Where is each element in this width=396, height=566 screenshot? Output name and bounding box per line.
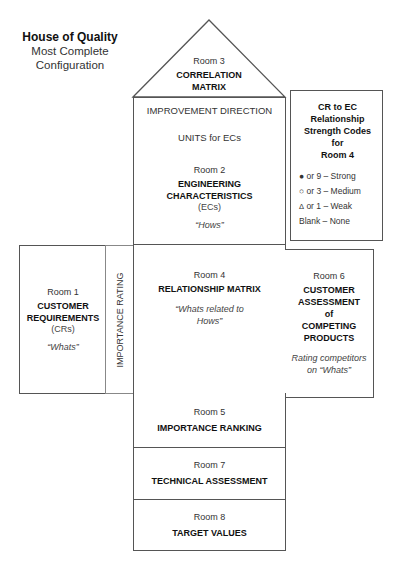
room1-customer-requirements: Room 1 CUSTOMER REQUIREMENTS (CRs) “What…: [19, 245, 106, 394]
room2-engineering-characteristics: Room 2 ENGINEERING CHARACTERISTICS (ECs)…: [133, 151, 286, 245]
legend-item-text: or 1 – Weak: [306, 201, 352, 211]
legend-title-line1: CR to EC: [299, 101, 376, 113]
room2-name-line1: ENGINEERING: [178, 178, 241, 190]
room3-name-line2: MATRIX: [192, 81, 226, 93]
room6-customer-assessment: Room 6 CUSTOMER ASSESSMENT of COMPETING …: [285, 249, 374, 398]
room7-technical-assessment: Room 7 TECHNICAL ASSESSMENT: [133, 447, 286, 500]
room4-relationship-matrix: Room 4 RELATIONSHIP MATRIX “Whats relate…: [133, 244, 286, 394]
legend-item-weak: Δ or 1 – Weak: [299, 199, 376, 214]
room6-tag-line1: Rating competitors: [291, 352, 366, 364]
room7-label: Room 7: [194, 460, 226, 470]
room8-label: Room 8: [194, 512, 226, 522]
legend-item-text: or 3 – Medium: [307, 186, 361, 196]
legend-item-text: Blank – None: [299, 216, 350, 226]
room8-name: TARGET VALUES: [172, 527, 247, 539]
legend-item-text: or 9 – Strong: [307, 171, 356, 181]
legend-item-none: Blank – None: [299, 214, 376, 229]
relationship-strength-legend: CR to EC Relationship Strength Codes for…: [290, 90, 383, 241]
room1-label: Room 1: [47, 287, 79, 297]
room3-correlation-matrix: Room 3 CORRELATION MATRIX: [160, 52, 258, 96]
room4-label: Room 4: [194, 270, 226, 280]
legend-item-medium: ○ or 3 – Medium: [299, 184, 376, 199]
room6-name-line2: ASSESSMENT: [298, 296, 360, 308]
legend-title-line3: Strength Codes for: [299, 125, 376, 149]
room6-name-line1: CUSTOMER: [303, 284, 354, 296]
room3-label: Room 3: [193, 56, 225, 66]
legend-title-line4: Room 4: [299, 149, 376, 161]
room1-name-line1: CUSTOMER: [37, 300, 88, 312]
room5-name: IMPORTANCE RANKING: [157, 422, 261, 434]
improvement-direction-row: IMPROVEMENT DIRECTION: [133, 97, 286, 124]
room8-target-values: Room 8 TARGET VALUES: [133, 499, 286, 551]
room7-name: TECHNICAL ASSESSMENT: [151, 475, 267, 487]
improvement-direction-label: IMPROVEMENT DIRECTION: [147, 105, 272, 116]
legend-list: ● or 9 – Strong ○ or 3 – Medium Δ or 1 –…: [299, 169, 376, 229]
importance-rating-column: IMPORTANCE RATING: [105, 245, 134, 394]
room6-name-line3: of: [325, 308, 334, 320]
room2-label: Room 2: [194, 165, 226, 175]
triangle-icon: Δ: [299, 202, 304, 211]
room5-label: Room 5: [194, 407, 226, 417]
room6-tag-line2: on “Whats”: [307, 364, 351, 376]
room2-name-line2: CHARACTERISTICS: [166, 190, 252, 202]
open-circle-icon: ○: [299, 186, 304, 196]
units-row: UNITS for ECs: [133, 123, 286, 152]
room6-name-line4: COMPETING: [302, 320, 357, 332]
room2-abbr: (ECs): [198, 202, 221, 212]
room4-tag-line1: “Whats related to: [175, 303, 244, 315]
importance-rating-label: IMPORTANCE RATING: [115, 272, 125, 367]
units-label: UNITS for ECs: [178, 132, 241, 143]
room2-tag: “Hows”: [195, 219, 224, 231]
room4-name: RELATIONSHIP MATRIX: [158, 283, 261, 295]
filled-circle-icon: ●: [299, 171, 304, 181]
room5-importance-ranking: Room 5 IMPORTANCE RANKING: [133, 393, 286, 448]
room1-name-line2: REQUIREMENTS: [27, 312, 100, 324]
room3-name-line1: CORRELATION: [176, 69, 241, 81]
room1-tag: “Whats”: [47, 341, 79, 353]
legend-title-line2: Relationship: [299, 113, 376, 125]
room6-label: Room 6: [313, 271, 345, 281]
room1-abbr: (CRs): [51, 324, 75, 334]
room4-tag-line2: Hows”: [197, 315, 223, 327]
legend-item-strong: ● or 9 – Strong: [299, 169, 376, 184]
room6-name-line5: PRODUCTS: [304, 332, 355, 344]
